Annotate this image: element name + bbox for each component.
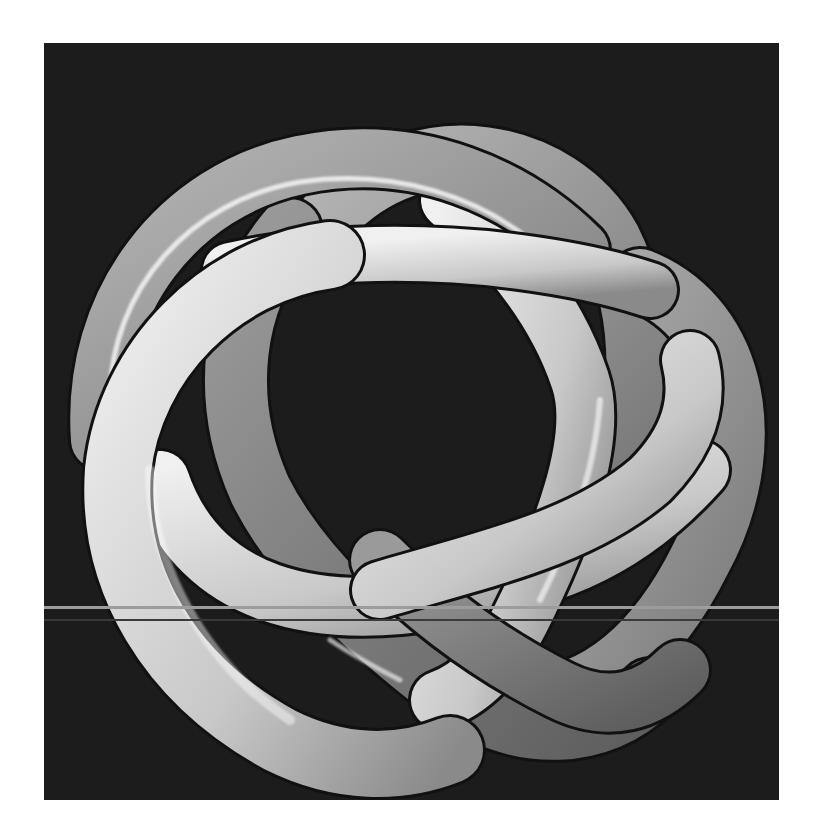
scanline-artifact (44, 606, 779, 609)
knot-render (44, 43, 779, 800)
render-panel (44, 43, 779, 800)
faint-scanline-artifact (44, 619, 779, 621)
